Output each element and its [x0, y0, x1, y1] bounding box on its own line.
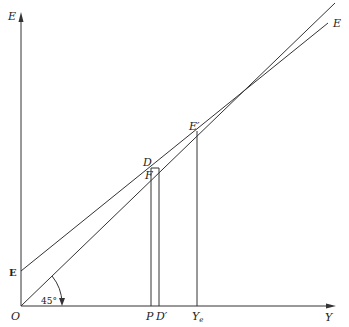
d-prime-label: D′ — [155, 310, 168, 323]
forty-five-degree-line — [21, 3, 335, 306]
intercept-label: E — [9, 267, 17, 278]
origin-label: O — [11, 310, 20, 323]
angle-arrow-icon — [59, 298, 65, 306]
p-label: P — [145, 310, 154, 323]
expenditure-line-label: E — [332, 17, 341, 30]
y-axis-label: E — [7, 10, 16, 23]
x-axis-arrow-icon — [326, 304, 336, 309]
y-axis-arrow-icon — [19, 12, 24, 22]
point-d-label: D — [142, 156, 152, 169]
keynesian-cross-diagram: E O Y E E 45° E′ D F P D′ Ye — [0, 0, 349, 327]
point-f-label: F — [144, 169, 153, 182]
angle-label: 45° — [41, 296, 57, 306]
equilibrium-label: E′ — [188, 120, 200, 133]
expenditure-line — [21, 23, 328, 271]
x-axis-label: Y — [325, 311, 334, 324]
ye-label: Ye — [192, 310, 203, 324]
